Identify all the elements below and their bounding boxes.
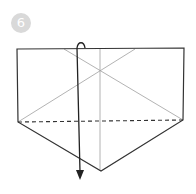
crease-lines bbox=[18, 49, 183, 171]
diagonal-crease-right bbox=[18, 49, 135, 122]
paper-outline bbox=[17, 48, 184, 171]
arrowhead-icon bbox=[76, 170, 84, 180]
origami-diagram bbox=[0, 0, 196, 194]
fold-arrow bbox=[77, 43, 85, 172]
diagonal-crease-left bbox=[64, 49, 183, 120]
valley-fold-line bbox=[18, 120, 183, 122]
